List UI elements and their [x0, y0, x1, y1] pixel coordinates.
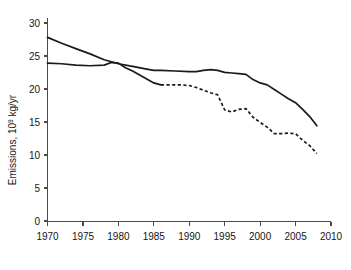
- y-axis-title: Emissions, 109 kg/yr: [7, 94, 19, 185]
- data-series-layer: [48, 37, 317, 153]
- x-tick-label: 1995: [214, 231, 237, 242]
- series-line-upper-series: [48, 37, 317, 125]
- y-tick-label: 0: [34, 216, 40, 227]
- series-line-lower-series-solid-segment: [48, 62, 161, 84]
- y-axis-title-prefix: Emissions, 10: [7, 122, 18, 185]
- x-tick-label: 2000: [249, 231, 272, 242]
- x-tick-label: 1980: [107, 231, 130, 242]
- y-tick-labels: 30 25 20 15 10 5 0: [29, 18, 41, 227]
- x-tick-label: 1970: [36, 231, 59, 242]
- x-tick-labels: 1970 1975 1980 1985 1990 1995 2000 2005 …: [36, 231, 342, 242]
- x-tick-label: 1990: [178, 231, 201, 242]
- y-axis-title-suffix: kg/yr: [7, 94, 18, 119]
- series-line-lower-series-dashed-segment: [161, 85, 317, 154]
- y-tick-label: 30: [29, 18, 41, 29]
- x-tick-label: 1975: [72, 231, 95, 242]
- x-tick-label: 2010: [320, 231, 343, 242]
- chart-canvas: 30 25 20 15 10 5 0 1970 1975 1980 1985 1…: [0, 0, 351, 270]
- emissions-line-chart: 30 25 20 15 10 5 0 1970 1975 1980 1985 1…: [0, 0, 351, 270]
- x-tick-marks: [48, 222, 332, 226]
- y-tick-label: 20: [29, 84, 41, 95]
- y-tick-label: 15: [29, 117, 41, 128]
- y-tick-label: 5: [34, 183, 40, 194]
- x-tick-label: 1985: [143, 231, 166, 242]
- y-tick-label: 10: [29, 150, 41, 161]
- y-tick-marks: [44, 23, 48, 221]
- y-tick-label: 25: [29, 51, 41, 62]
- x-tick-label: 2005: [284, 231, 307, 242]
